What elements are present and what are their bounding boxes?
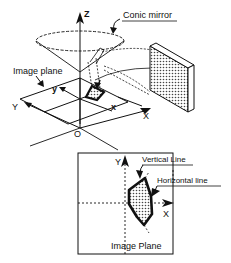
image-y-arrow-icon [59, 87, 66, 92]
image-plane-caption: Image Plane [111, 242, 162, 251]
horizontal-line-label: Horizontal line [157, 177, 208, 185]
image-y-label: y [52, 85, 57, 94]
image-y-axis [62, 89, 80, 99]
world-y-arrow-icon [24, 102, 32, 108]
image-plane-x-label: X [163, 210, 169, 219]
diagram-canvas [0, 0, 231, 263]
image-plane-pointer-arrow-icon [37, 80, 44, 87]
image-plane-y-label: Y [115, 158, 121, 167]
vertical-line-label: Vertical Line [142, 156, 186, 164]
ray-lines [90, 48, 152, 80]
image-x-label: x [111, 103, 116, 112]
world-y-axis [27, 104, 80, 128]
world-x-axis [80, 110, 148, 128]
world-y-label: Y [12, 103, 18, 112]
object-panel [150, 43, 194, 112]
image-plane-frame [78, 153, 173, 254]
conic-mirror-label: Conic mirror [123, 11, 172, 20]
conic-mirror-pointer-arrow-icon [110, 27, 117, 34]
z-axis-label: Z [84, 10, 90, 19]
image-plane-label: Image plane [13, 67, 63, 76]
world-x-label: X [143, 112, 149, 121]
image-plane-3d [20, 78, 128, 124]
origin-label: O [74, 130, 81, 139]
